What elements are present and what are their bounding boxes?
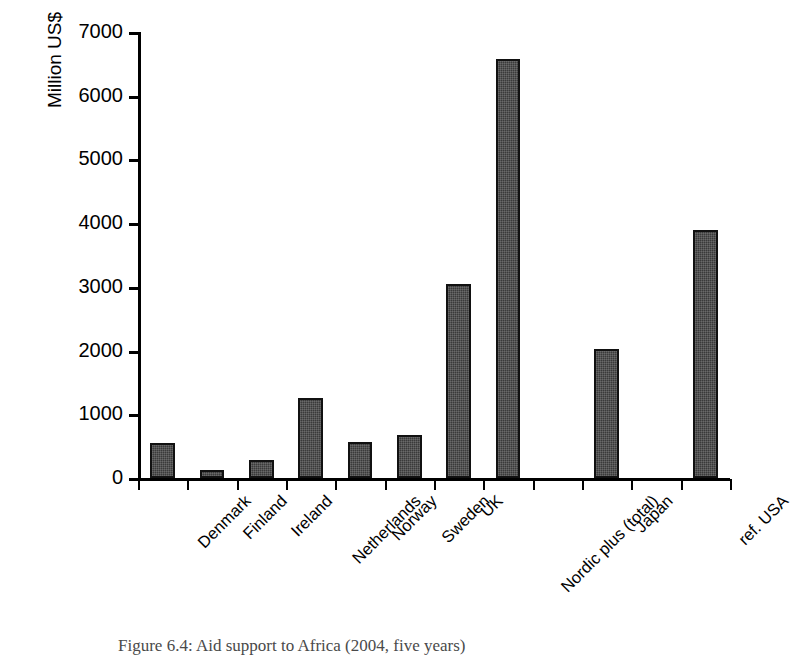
bar xyxy=(594,349,619,478)
y-axis-tick-label: 6000 xyxy=(79,85,124,105)
bar xyxy=(397,435,422,478)
bar xyxy=(298,398,323,478)
y-axis-tick: 5000 xyxy=(129,159,138,162)
y-axis-tick: 0 xyxy=(129,478,138,481)
x-axis-tick xyxy=(631,479,633,490)
x-axis-tick xyxy=(335,479,337,490)
x-axis-tick xyxy=(681,479,683,490)
x-axis-tick-label: ref. USA xyxy=(736,492,792,548)
y-axis-tick-label: 0 xyxy=(112,467,123,487)
bar xyxy=(249,460,274,478)
x-axis-tick xyxy=(237,479,239,490)
y-axis-tick: 6000 xyxy=(129,96,138,99)
x-axis-tick xyxy=(483,479,485,490)
x-axis-tick xyxy=(434,479,436,490)
y-axis-tick-label: 1000 xyxy=(79,403,124,423)
x-axis-tick-label: Ireland xyxy=(288,492,336,540)
y-axis-tick: 3000 xyxy=(129,287,138,290)
y-axis-spine xyxy=(138,32,141,479)
x-axis-tick-label: Denmark xyxy=(194,492,253,551)
x-axis-spine xyxy=(130,478,730,481)
x-axis-tick xyxy=(138,479,140,490)
y-axis-tick: 1000 xyxy=(129,414,138,417)
y-axis-tick: 2000 xyxy=(129,351,138,354)
bar xyxy=(693,230,718,478)
plot-area: 01000200030004000500060007000 DenmarkFin… xyxy=(138,32,730,478)
figure-caption: Figure 6.4: Aid support to Africa (2004,… xyxy=(118,636,466,656)
x-axis-tick xyxy=(730,479,732,490)
y-axis-tick-label: 4000 xyxy=(79,212,124,232)
y-axis-tick-label: 7000 xyxy=(79,21,124,41)
y-axis-tick: 4000 xyxy=(129,223,138,226)
x-axis-tick xyxy=(533,479,535,490)
y-axis-tick-label: 2000 xyxy=(79,340,124,360)
bar xyxy=(348,442,373,478)
bar xyxy=(200,470,225,478)
bar xyxy=(496,59,521,478)
y-axis-tick-label: 3000 xyxy=(79,276,124,296)
y-axis-tick-label: 5000 xyxy=(79,148,124,168)
bar xyxy=(446,284,471,478)
x-axis-tick xyxy=(187,479,189,490)
y-axis-tick: 7000 xyxy=(129,32,138,35)
y-axis-title: Million US$ xyxy=(44,0,66,170)
bar xyxy=(150,443,175,478)
x-axis-tick xyxy=(385,479,387,490)
x-axis-tick xyxy=(286,479,288,490)
x-axis-tick xyxy=(582,479,584,490)
